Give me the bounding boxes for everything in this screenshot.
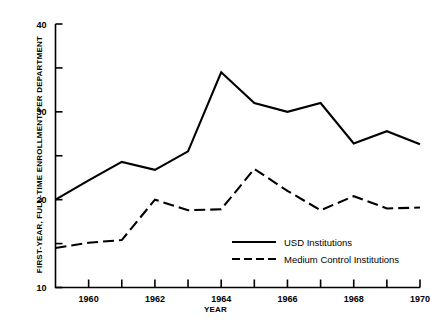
axes: [56, 24, 421, 288]
x-tick-label: 1964: [211, 294, 231, 304]
legend-swatches: USD InstitutionsMedium Control Instituti…: [232, 237, 399, 265]
x-tick-label: 1970: [410, 294, 430, 304]
x-tick-label: 1968: [344, 294, 364, 304]
legend-label: Medium Control Institutions: [284, 254, 399, 265]
y-axis-title: FIRST-YEAR, FULL-TIME ENROLLMENT PER DEP…: [35, 30, 44, 280]
x-tick-label: 1962: [145, 294, 165, 304]
y-tick-label: 40: [36, 20, 46, 30]
series-line: [56, 72, 421, 199]
x-tick-label: 1960: [79, 294, 99, 304]
data-series: [56, 72, 421, 248]
axis-lines: [56, 24, 421, 288]
x-tick-label: 1966: [277, 294, 297, 304]
series-line: [56, 169, 421, 248]
chart-figure: 10203040196019621964196619681970 USD Ins…: [0, 0, 431, 323]
legend-label: USD Institutions: [284, 237, 352, 248]
line-chart-canvas: 10203040196019621964196619681970 USD Ins…: [0, 0, 431, 323]
x-axis-title: YEAR: [0, 305, 431, 314]
y-tick-label: 10: [36, 283, 46, 293]
